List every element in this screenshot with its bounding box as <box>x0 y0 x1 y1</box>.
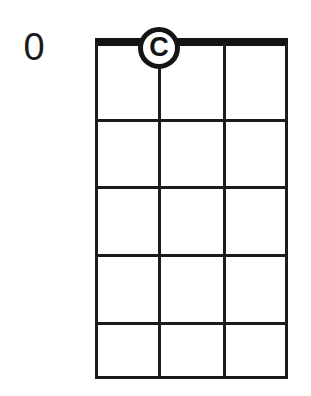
fret-line-3 <box>95 254 288 257</box>
string-line-3 <box>223 42 226 379</box>
fret-line-4 <box>95 322 288 325</box>
string-line-4 <box>285 42 288 379</box>
fret-line-2 <box>95 186 288 189</box>
chord-root-marker-c: C <box>138 27 180 69</box>
nut-line <box>95 38 288 46</box>
fret-position-label: 0 <box>14 26 54 68</box>
fret-line-5 <box>95 376 288 379</box>
fretboard-grid <box>95 42 288 379</box>
string-line-1 <box>95 42 98 379</box>
chord-diagram: 0 C <box>0 0 311 396</box>
chord-root-marker-label: C <box>149 34 169 61</box>
fret-line-1 <box>95 119 288 122</box>
string-line-2 <box>158 42 161 379</box>
